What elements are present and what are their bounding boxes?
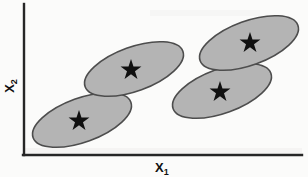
y-axis-label: X2 xyxy=(2,79,19,93)
plot-canvas: X1 X2 xyxy=(0,0,308,177)
clusters-group xyxy=(26,5,306,159)
x-axis-label: X1 xyxy=(155,160,169,177)
cluster-diagram-figure: X1 X2 xyxy=(0,0,308,177)
x-axis-label-subscript: 1 xyxy=(164,167,169,177)
y-axis-label-subscript: 2 xyxy=(9,79,19,84)
y-axis-label-letter: X xyxy=(2,84,17,93)
x-axis-label-letter: X xyxy=(155,160,164,175)
